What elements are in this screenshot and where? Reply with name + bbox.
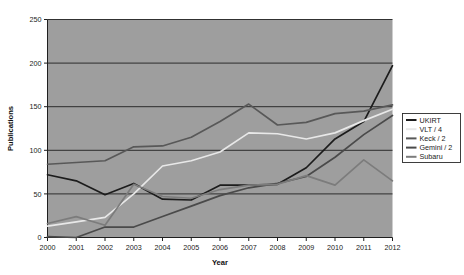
x-tick-label: 2008 <box>270 243 286 252</box>
x-axis: 2000200120022003200420052006200720082009… <box>40 238 401 253</box>
y-tick-label: 0 <box>38 233 42 242</box>
y-tick-label: 100 <box>30 146 42 155</box>
y-tick-label: 50 <box>34 190 42 199</box>
legend-label-subaru: Subaru <box>420 152 443 161</box>
legend: UKIRTVLT / 4Keck / 2Gemini / 2Subaru <box>403 114 461 163</box>
x-tick-label: 2010 <box>327 243 343 252</box>
x-tick-label: 2011 <box>356 243 371 252</box>
x-tick-label: 2006 <box>212 243 228 252</box>
x-tick-label: 2004 <box>155 243 171 252</box>
y-axis-title: Publications <box>6 106 15 151</box>
x-axis-title: Year <box>212 258 228 267</box>
x-tick-label: 2009 <box>298 243 314 252</box>
x-tick-label: 2005 <box>183 243 199 252</box>
x-tick-label: 2001 <box>68 243 84 252</box>
publications-line-chart: 0501001502002502000200120022003200420052… <box>0 0 464 275</box>
chart-canvas: 0501001502002502000200120022003200420052… <box>0 0 464 275</box>
x-tick-label: 2000 <box>40 243 56 252</box>
y-tick-label: 150 <box>30 102 42 111</box>
x-tick-label: 2012 <box>385 243 401 252</box>
y-axis: 050100150200250 <box>30 15 48 242</box>
legend-label-ukirt: UKIRT <box>420 116 442 125</box>
plot-area-background <box>48 20 393 238</box>
x-tick-label: 2003 <box>126 243 142 252</box>
y-tick-label: 250 <box>30 15 42 24</box>
x-tick-label: 2007 <box>241 243 257 252</box>
legend-label-gemini-2: Gemini / 2 <box>420 143 453 152</box>
y-tick-label: 200 <box>30 59 42 68</box>
legend-label-vlt-4: VLT / 4 <box>420 125 443 134</box>
x-tick-label: 2002 <box>97 243 113 252</box>
legend-label-keck-2: Keck / 2 <box>420 134 446 143</box>
